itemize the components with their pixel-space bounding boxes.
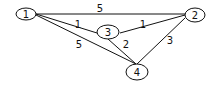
edge-weight-1-3: 1 — [75, 19, 81, 30]
edge-weight-3-2: 1 — [140, 19, 146, 30]
node-label: 1 — [23, 9, 29, 20]
edge-weight-1-2: 5 — [97, 3, 103, 14]
edge-1-4 — [36, 15, 136, 64]
node-2: 2 — [185, 8, 205, 22]
edge-weight-1-4: 5 — [76, 39, 82, 50]
node-label: 3 — [105, 27, 111, 38]
weights-layer: 515123 — [75, 3, 173, 50]
node-1: 1 — [16, 8, 36, 20]
edge-weight-3-4: 2 — [123, 39, 129, 50]
graph-diagram: 515123 1234 — [0, 0, 215, 85]
edge-3-2 — [120, 15, 185, 33]
node-4: 4 — [126, 64, 148, 80]
node-3: 3 — [97, 25, 119, 39]
node-label: 2 — [192, 10, 198, 21]
node-label: 4 — [134, 67, 140, 78]
edge-weight-2-4: 3 — [167, 35, 173, 46]
